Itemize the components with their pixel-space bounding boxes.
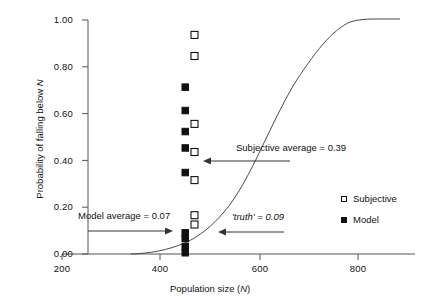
- data-point-model: [182, 128, 189, 135]
- data-point-model: [182, 169, 189, 176]
- x-axis-title-suffix: ): [247, 283, 250, 294]
- legend-label-model: Model: [353, 214, 379, 225]
- annotation-truth: 'truth' = 0.09: [232, 211, 284, 222]
- data-point-model: [182, 84, 189, 91]
- x-axis-ticks: [62, 254, 358, 260]
- x-tick-label-4: 800: [338, 263, 378, 274]
- legend-item-model: Model: [341, 214, 379, 225]
- x-tick-label-1: 200: [42, 263, 82, 274]
- y-axis-title-prefix: Probability of falling below: [34, 86, 45, 198]
- y-tick-label-1: 1.00: [33, 14, 73, 25]
- annotation-model-average: Model average = 0.07: [78, 210, 170, 221]
- data-point-model: [182, 250, 189, 257]
- open-square-icon: [341, 196, 347, 202]
- subjective-average-arrow: [203, 158, 290, 165]
- y-axis-title: Probability of falling below N: [29, 39, 47, 239]
- y-axis-title-variable: N: [34, 79, 45, 86]
- data-point-subjective: [191, 221, 198, 228]
- data-point-subjective: [191, 53, 198, 60]
- x-axis-title: Population size (N): [170, 283, 250, 294]
- data-point-subjective: [191, 120, 198, 127]
- x-axis-title-prefix: Population size (: [170, 283, 240, 294]
- model-data-points: [182, 84, 189, 256]
- figure-container: 1.00 0.80 0.60 0.40 0.20 0.00 200 400 60…: [0, 0, 421, 304]
- model-average-arrow: [88, 228, 173, 235]
- data-point-model: [182, 107, 189, 114]
- truth-arrow: [218, 229, 284, 236]
- annotation-subjective-average: Subjective average = 0.39: [236, 142, 346, 153]
- legend-item-subjective: Subjective: [341, 193, 397, 204]
- data-point-subjective: [191, 149, 198, 156]
- data-point-subjective: [191, 31, 198, 38]
- data-point-model: [182, 235, 189, 242]
- legend-label-subjective: Subjective: [353, 193, 397, 204]
- filled-square-icon: [341, 217, 347, 223]
- y-tick-label-6: 0.00: [33, 248, 73, 259]
- y-axis-title-text: Probability of falling below N: [34, 79, 45, 198]
- data-point-subjective: [191, 212, 198, 219]
- data-point-model: [182, 145, 189, 152]
- x-tick-label-3: 600: [240, 263, 280, 274]
- data-point-subjective: [191, 177, 198, 184]
- subjective-data-points: [191, 31, 198, 228]
- x-tick-label-2: 400: [140, 263, 180, 274]
